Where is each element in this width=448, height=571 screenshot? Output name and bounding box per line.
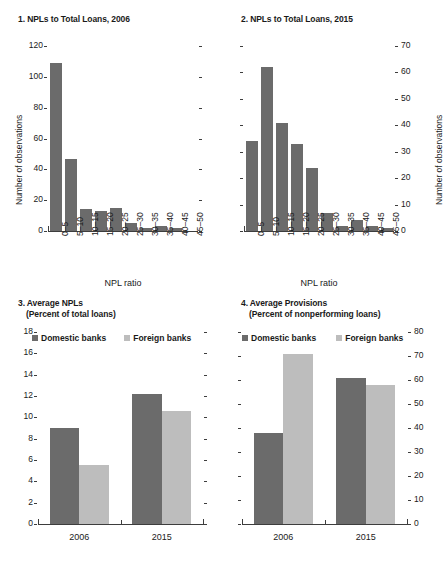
y-tick-left-unlabeled xyxy=(238,476,241,477)
y-tick-right-unlabeled xyxy=(204,353,207,354)
y-tick-right xyxy=(395,125,398,126)
y-tick-left xyxy=(34,353,37,354)
panel4-plot-area: 0102030405060708020062015 xyxy=(242,332,407,524)
y-tick-label-panel4-2: 20 xyxy=(414,471,423,480)
panel4-title-line1: 4. Average Provisions xyxy=(241,298,327,309)
y-tick-right-unlabeled xyxy=(204,524,207,525)
y-tick-left xyxy=(44,169,47,170)
y-tick-left xyxy=(44,139,47,140)
y-tick-left xyxy=(34,332,37,333)
y-tick-left xyxy=(44,46,47,47)
y-tick-label-panel1-4: 80 xyxy=(14,103,43,112)
y-tick-label-panel3-8: 16 xyxy=(8,348,33,357)
y-tick-left xyxy=(34,375,37,376)
y-tick-right-unlabeled xyxy=(204,439,207,440)
panel3-title-line2: (Percent of total loans) xyxy=(26,309,116,320)
y-tick-left xyxy=(34,481,37,482)
y-tick-left xyxy=(34,524,37,525)
y-tick-left xyxy=(34,396,37,397)
bar-panel4-domestic-banks-2006 xyxy=(254,433,284,524)
y-tick-left-unlabeled xyxy=(240,231,243,232)
y-tick-left-unlabeled xyxy=(240,72,243,73)
panel2-title: 2. NPLs to Total Loans, 2015 xyxy=(241,14,353,25)
panel-average-npls: 3. Average NPLs (Percent of total loans)… xyxy=(0,290,224,571)
y-tick-left-unlabeled xyxy=(238,404,241,405)
y-tick-label-panel1-0: 0 xyxy=(14,226,43,235)
y-tick-label-panel4-1: 10 xyxy=(414,495,423,504)
y-tick-right-unlabeled xyxy=(199,77,202,78)
y-tick-right xyxy=(395,72,398,73)
bar-panel2-0 xyxy=(246,141,258,231)
y-tick-right xyxy=(408,452,411,453)
y-tick-left-unlabeled xyxy=(238,380,241,381)
x-category-label-panel1-5: 25–30 xyxy=(135,212,145,236)
y-tick-left-unlabeled xyxy=(238,500,241,501)
y-tick-right-unlabeled xyxy=(199,108,202,109)
y-tick-right-unlabeled xyxy=(204,460,207,461)
x-category-label-panel2-6: 30–35 xyxy=(346,212,356,236)
y-tick-label-panel1-5: 100 xyxy=(14,72,43,81)
y-tick-left xyxy=(44,77,47,78)
panel2-x-axis-title: NPL ratio xyxy=(244,278,394,288)
y-axis-stub xyxy=(242,519,243,525)
panel1-title: 1. NPLs to Total Loans, 2006 xyxy=(18,14,130,25)
y-tick-right xyxy=(408,332,411,333)
y-tick-label-panel3-0: 0 xyxy=(8,519,33,528)
y-tick-left xyxy=(34,417,37,418)
y-tick-label-panel4-6: 60 xyxy=(414,375,423,384)
y-tick-label-panel3-3: 6 xyxy=(8,455,33,464)
panel2-y-axis-title: Number of observations xyxy=(434,115,444,205)
y-tick-right xyxy=(395,99,398,100)
y-tick-right xyxy=(408,356,411,357)
y-tick-label-panel1-6: 120 xyxy=(14,41,43,50)
y-tick-label-panel2-2: 20 xyxy=(401,173,410,182)
bar-panel4-domestic-banks-2015 xyxy=(336,378,366,524)
x-category-label-panel2-1: 5–10 xyxy=(271,217,281,236)
y-tick-label-panel2-3: 30 xyxy=(401,147,410,156)
x-category-label-panel3-2006: 2006 xyxy=(38,532,121,542)
y-tick-right xyxy=(395,46,398,47)
y-tick-right xyxy=(395,205,398,206)
y-tick-left xyxy=(44,200,47,201)
y-tick-label-panel4-3: 30 xyxy=(414,447,423,456)
x-category-label-panel2-9: 45–50 xyxy=(391,212,401,236)
y-tick-left xyxy=(34,503,37,504)
y-tick-label-panel4-5: 50 xyxy=(414,399,423,408)
y-tick-label-panel3-6: 12 xyxy=(8,391,33,400)
y-tick-left-unlabeled xyxy=(238,452,241,453)
y-tick-left-unlabeled xyxy=(238,332,241,333)
x-category-label-panel4-2006: 2006 xyxy=(242,532,325,542)
y-tick-left-unlabeled xyxy=(238,428,241,429)
y-tick-right xyxy=(408,380,411,381)
x-category-label-panel1-9: 45–50 xyxy=(195,212,205,236)
panel1-plot-area: 0204060801001200–55–1010–1515–2020–2525–… xyxy=(48,46,198,231)
group-separator-tick xyxy=(121,520,122,525)
panel2-plot-area: 0102030405060700–55–1010–1515–2020–2525–… xyxy=(244,46,394,231)
bar-panel3-domestic-banks-2006 xyxy=(50,428,80,524)
panel-npls-2015: 2. NPLs to Total Loans, 2015 01020304050… xyxy=(224,0,448,290)
y-tick-right-unlabeled xyxy=(199,200,202,201)
y-tick-right-unlabeled xyxy=(204,332,207,333)
panel3-title-line1: 3. Average NPLs xyxy=(18,298,83,309)
bar-panel3-foreign-banks-2015 xyxy=(162,411,192,524)
y-tick-left xyxy=(34,439,37,440)
panel-npls-2006: 1. NPLs to Total Loans, 2006 02040608010… xyxy=(0,0,224,290)
y-tick-right xyxy=(395,178,398,179)
y-tick-label-panel2-4: 40 xyxy=(401,120,410,129)
bar-panel1-0 xyxy=(50,63,62,231)
y-tick-label-panel2-1: 10 xyxy=(401,200,410,209)
y-tick-label-panel2-7: 70 xyxy=(401,41,410,50)
x-category-label-panel3-2015: 2015 xyxy=(121,532,204,542)
x-category-label-panel2-0: 0–5 xyxy=(256,222,266,236)
y-tick-right xyxy=(408,500,411,501)
y-tick-label-panel2-5: 50 xyxy=(401,94,410,103)
panel3-plot-area: 02468101214161820062015 xyxy=(38,332,203,524)
y-tick-left xyxy=(44,231,47,232)
bar-panel3-foreign-banks-2006 xyxy=(79,465,109,524)
y-tick-right-unlabeled xyxy=(204,375,207,376)
y-tick-right-unlabeled xyxy=(204,503,207,504)
x-category-label-panel1-6: 30–35 xyxy=(150,212,160,236)
y-tick-right-unlabeled xyxy=(204,396,207,397)
y-tick-right-unlabeled xyxy=(199,169,202,170)
y-axis-stub xyxy=(38,519,39,525)
